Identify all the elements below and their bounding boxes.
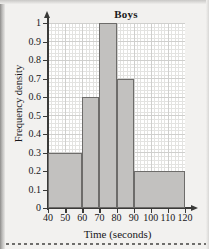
histogram-bar <box>117 79 134 209</box>
plot-area <box>48 23 185 208</box>
y-tick-label: 0.3 <box>29 148 42 158</box>
y-tick-mark <box>43 42 48 43</box>
y-tick-mark <box>43 116 48 117</box>
y-tick-label: 0.9 <box>29 37 42 47</box>
y-tick-label: 0.2 <box>29 166 42 176</box>
y-tick-label: 0.7 <box>29 74 42 84</box>
y-tick-label: 0.1 <box>29 185 42 195</box>
x-tick-label: 120 <box>174 213 196 223</box>
y-tick-mark <box>43 23 48 24</box>
page-edge-shadow-right <box>206 0 209 249</box>
y-tick-mark <box>43 79 48 80</box>
page-dotted-rule <box>6 243 206 245</box>
y-tick-mark <box>43 134 48 135</box>
y-axis-title: Frequency density <box>13 34 24 174</box>
histogram-bar <box>82 97 99 208</box>
y-tick-mark <box>43 97 48 98</box>
histogram-bar <box>48 153 82 209</box>
page-edge-shadow-top <box>0 0 209 4</box>
page-edge-shadow-left <box>0 0 5 249</box>
y-tick-mark <box>43 60 48 61</box>
y-tick-label: 0.5 <box>29 111 42 121</box>
x-axis-title: Time (seconds) <box>40 228 195 240</box>
y-tick-label: 0.4 <box>29 129 42 139</box>
histogram-bar <box>99 23 116 208</box>
y-tick-label: 0.8 <box>29 55 42 65</box>
x-axis-arrow-icon <box>191 205 198 211</box>
histogram-bar <box>134 171 185 208</box>
y-tick-label: 1 <box>36 18 41 28</box>
histogram-figure: Boys 00.10.20.30.40.50.60.70.80.91 40506… <box>0 0 209 249</box>
chart-title: Boys <box>56 8 196 20</box>
y-tick-label: 0.6 <box>29 92 42 102</box>
y-tick-label: 0 <box>36 203 41 213</box>
y-axis-arrow-icon <box>44 11 50 18</box>
